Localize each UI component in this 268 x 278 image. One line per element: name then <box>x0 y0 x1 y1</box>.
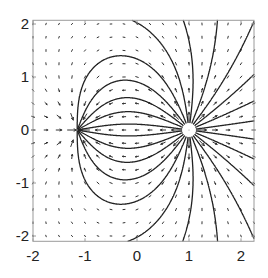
y-tick-label: 2 <box>21 15 29 32</box>
x-tick-label: 0 <box>133 247 141 264</box>
y-tick-label: -2 <box>16 227 29 244</box>
vector-field-plot: -2-1012 -2-1012 <box>0 0 268 278</box>
x-tick-label: 1 <box>185 247 193 264</box>
x-tick-label: 2 <box>237 247 245 264</box>
y-tick-label: 0 <box>21 121 29 138</box>
x-tick-label: -1 <box>78 247 91 264</box>
x-tick-label: -2 <box>26 247 39 264</box>
y-tick-label: 1 <box>21 68 29 85</box>
source-marker <box>182 123 196 137</box>
y-tick-label: -1 <box>16 174 29 191</box>
